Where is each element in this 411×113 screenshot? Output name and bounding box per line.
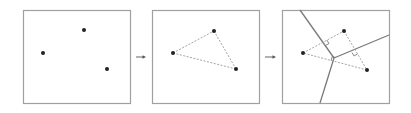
panel-points xyxy=(24,11,131,104)
panel-triangulation xyxy=(153,11,260,104)
panel-voronoi xyxy=(283,10,390,104)
site-point xyxy=(82,28,86,32)
site-point xyxy=(234,67,238,71)
panels xyxy=(24,10,390,104)
panel-frame xyxy=(24,11,131,104)
site-point xyxy=(212,29,216,33)
site-point xyxy=(301,51,305,55)
site-point xyxy=(365,68,369,72)
arrow-icon xyxy=(136,55,146,59)
site-point xyxy=(105,67,109,71)
site-point xyxy=(342,29,346,33)
panel-frame xyxy=(153,11,260,104)
site-point xyxy=(41,51,45,55)
arrow-icon xyxy=(265,55,276,59)
voronoi-construction-diagram xyxy=(0,0,411,113)
site-point xyxy=(171,51,175,55)
